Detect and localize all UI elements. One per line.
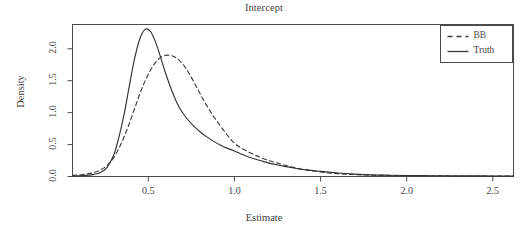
x-tick-label: 2.5 — [487, 185, 500, 196]
density-plot-figure: Intercept Density Estimate 0.51.01.52.02… — [0, 0, 528, 246]
legend-label-truth: Truth — [474, 45, 495, 55]
x-tick-label: 1.0 — [228, 185, 241, 196]
y-axis-label: Density — [15, 52, 26, 132]
page-title: Intercept — [0, 2, 528, 13]
y-tick-label: 1.5 — [46, 67, 57, 91]
series-line-bb — [73, 55, 514, 176]
y-tick-label: 0.5 — [46, 131, 57, 155]
y-tick-label: 0.0 — [46, 163, 57, 187]
plot-canvas — [0, 0, 528, 246]
x-tick-label: 0.5 — [142, 185, 155, 196]
x-axis-label: Estimate — [0, 212, 528, 223]
x-tick-label: 2.0 — [400, 185, 413, 196]
legend-label-bb: BB — [474, 30, 487, 40]
y-tick-label: 1.0 — [46, 99, 57, 123]
x-tick-label: 1.5 — [314, 185, 327, 196]
y-tick-label: 2.0 — [46, 35, 57, 59]
